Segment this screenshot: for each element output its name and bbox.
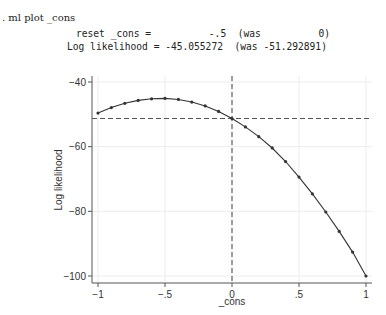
data-point-marker — [311, 192, 314, 195]
data-point-marker — [177, 98, 180, 101]
data-point-marker — [351, 250, 354, 253]
data-point-marker — [137, 99, 140, 102]
y-axis-title: Log likelihood — [53, 149, 64, 210]
data-point-marker — [204, 104, 207, 107]
y-tick-label: −40 — [69, 77, 86, 88]
y-tick-label: −80 — [69, 206, 86, 217]
data-point-marker — [230, 117, 233, 120]
data-point-marker — [123, 102, 126, 105]
data-point-marker — [257, 135, 260, 138]
data-point-marker — [284, 160, 287, 163]
data-point-marker — [338, 230, 341, 233]
data-point-marker — [217, 110, 220, 113]
data-point-marker — [110, 106, 113, 109]
data-point-marker — [244, 125, 247, 128]
x-axis-title: _cons — [218, 296, 246, 307]
data-point-marker — [364, 274, 367, 277]
x-tick-label: −1 — [92, 289, 104, 300]
data-point-marker — [324, 210, 327, 213]
x-tick-label: −.5 — [158, 289, 173, 300]
data-point-marker — [297, 175, 300, 178]
y-tick-label: −100 — [63, 271, 86, 282]
data-point-marker — [150, 97, 153, 100]
x-tick-label: .5 — [295, 289, 304, 300]
data-point-marker — [190, 100, 193, 103]
y-tick-label: −60 — [69, 141, 86, 152]
log-likelihood-plot: −40−60−80−100−1−.50.51_consLog likelihoo… — [0, 0, 386, 315]
data-point-marker — [163, 97, 166, 100]
data-point-marker — [271, 146, 274, 149]
data-point-marker — [96, 111, 99, 114]
x-tick-label: 1 — [363, 289, 369, 300]
